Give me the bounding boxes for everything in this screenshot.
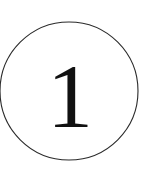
badge-canvas: 1 <box>0 0 141 180</box>
badge-numeral: 1 <box>47 45 93 147</box>
numbered-circle-badge: 1 <box>0 0 141 180</box>
